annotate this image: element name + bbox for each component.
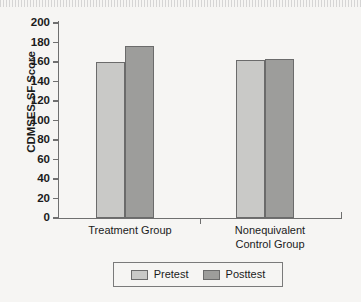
legend-swatch-pretest-icon <box>131 270 148 280</box>
y-axis-tick <box>53 159 58 160</box>
legend-entry-pretest: Pretest <box>131 269 189 280</box>
y-axis-tick <box>53 100 58 101</box>
y-axis-tick-label-wrap: 80 <box>0 134 50 146</box>
y-axis-tick-label: 140 <box>6 76 50 88</box>
y-axis-tick-label-wrap: 40 <box>0 173 50 185</box>
y-axis-tick <box>53 22 58 23</box>
y-axis-tick-label-wrap: 140 <box>0 76 50 88</box>
legend-swatch-posttest-icon <box>203 270 220 280</box>
y-axis-tick <box>53 217 58 218</box>
y-axis-tick-label-wrap: 60 <box>0 154 50 166</box>
y-axis-tick-label-wrap: 20 <box>0 193 50 205</box>
bar-posttest-group-1 <box>125 46 154 218</box>
bar-posttest-group-2 <box>265 59 294 218</box>
legend-entry-posttest: Posttest <box>203 269 266 280</box>
y-axis-tick-label: 80 <box>6 134 50 146</box>
y-axis-tick-label: 60 <box>6 154 50 166</box>
x-axis-end-tick <box>341 212 342 218</box>
y-axis-tick-label: 120 <box>6 95 50 107</box>
legend-label-pretest: Pretest <box>154 269 189 280</box>
y-axis-tick-label: 200 <box>6 17 50 29</box>
y-axis-tick <box>53 81 58 82</box>
y-axis-tick-label-wrap: 180 <box>0 37 50 49</box>
y-axis-tick-label-wrap: 100 <box>0 115 50 127</box>
y-axis-tick <box>53 61 58 62</box>
figure-chart-bar: CDMSES-SF Score 020406080100120140160180… <box>0 0 361 302</box>
bar-pretest-group-1 <box>96 62 125 218</box>
y-axis-tick <box>53 139 58 140</box>
y-axis-tick-label-wrap: 200 <box>0 17 50 29</box>
y-axis-tick-label-wrap: 120 <box>0 95 50 107</box>
x-axis-category-label-control: Nonequivalent Control Group <box>200 224 340 251</box>
y-axis-tick-label-wrap: 160 <box>0 56 50 68</box>
y-axis-tick-label: 160 <box>6 56 50 68</box>
chart-legend: Pretest Posttest <box>113 262 283 287</box>
y-axis-tick-label: 20 <box>6 193 50 205</box>
y-axis-tick-label: 180 <box>6 37 50 49</box>
y-axis-tick-label-wrap: 0 <box>0 212 50 224</box>
y-axis-tick-label: 100 <box>6 115 50 127</box>
y-axis-tick-label: 40 <box>6 173 50 185</box>
y-axis-tick <box>53 42 58 43</box>
y-axis-tick <box>53 198 58 199</box>
legend-label-posttest: Posttest <box>226 269 266 280</box>
y-axis-line <box>58 21 59 219</box>
y-axis-tick <box>53 120 58 121</box>
y-axis-tick <box>53 178 58 179</box>
plot-area: CDMSES-SF Score 020406080100120140160180… <box>0 0 361 302</box>
bar-pretest-group-2 <box>236 60 265 218</box>
x-axis-category-label-treatment: Treatment Group <box>60 224 200 238</box>
y-axis-tick-label: 0 <box>6 212 50 224</box>
